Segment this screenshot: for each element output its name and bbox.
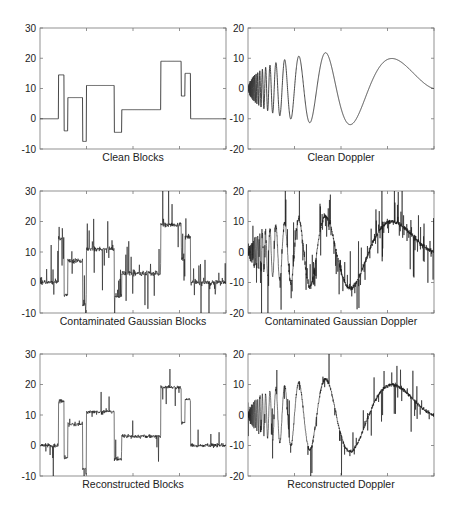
panel-reconstructed-doppler: Reconstructed Doppler -20-1001020 <box>230 349 434 491</box>
axes-frame <box>248 354 434 476</box>
y-tick-label: 10 <box>25 410 37 421</box>
y-tick-label: 0 <box>30 440 36 451</box>
y-tick-label: 20 <box>233 23 245 34</box>
y-tick-label: -10 <box>22 308 37 319</box>
panel-contaminated-doppler: Contaminated Gaussian Doppler -20-100102… <box>230 186 434 328</box>
panel-contaminated-blocks: Contaminated Gaussian Blocks -100102030 <box>22 186 226 328</box>
y-tick-label: 0 <box>30 113 36 124</box>
signal-line <box>248 354 434 476</box>
signal-line <box>40 369 226 476</box>
y-tick-label: 10 <box>233 216 245 227</box>
y-tick-label: 20 <box>25 379 37 390</box>
axes-frame <box>248 28 434 149</box>
panel-title: Reconstructed Doppler <box>287 478 395 490</box>
y-tick-label: -20 <box>230 471 245 482</box>
y-tick-label: 0 <box>238 247 244 258</box>
panel-clean-doppler: Clean Doppler -20-1001020 <box>230 23 434 164</box>
y-tick-label: 20 <box>233 186 245 197</box>
panel-title: Clean Blocks <box>102 151 163 163</box>
y-tick-label: 10 <box>233 379 245 390</box>
panel-reconstructed-blocks: Reconstructed Blocks -100102030 <box>22 349 226 491</box>
signal-line <box>248 191 434 313</box>
panel-title: Reconstructed Blocks <box>82 478 184 490</box>
y-tick-label: 30 <box>25 186 37 197</box>
y-tick-label: -10 <box>230 440 245 451</box>
signal-line <box>40 191 226 313</box>
y-tick-label: 10 <box>25 247 37 258</box>
panel-clean-blocks: Clean Blocks -100102030 <box>22 23 226 164</box>
y-tick-label: -20 <box>230 144 245 155</box>
signal-line <box>248 53 434 125</box>
y-tick-label: 20 <box>233 349 245 360</box>
y-tick-label: -10 <box>230 277 245 288</box>
y-tick-label: 30 <box>25 23 37 34</box>
panel-title: Clean Doppler <box>307 151 375 163</box>
y-tick-label: -10 <box>230 113 245 124</box>
y-tick-label: -20 <box>230 308 245 319</box>
y-tick-label: 0 <box>30 277 36 288</box>
y-tick-label: 10 <box>233 53 245 64</box>
y-tick-label: 0 <box>238 83 244 94</box>
signal-line <box>40 61 226 141</box>
figure: Clean Blocks -100102030 Clean Doppler -2… <box>0 0 458 508</box>
y-tick-label: 20 <box>25 216 37 227</box>
axes-frame <box>248 191 434 313</box>
y-tick-label: -10 <box>22 471 37 482</box>
y-tick-label: 30 <box>25 349 37 360</box>
panel-title: Contaminated Gaussian Doppler <box>265 315 418 327</box>
y-tick-label: 20 <box>25 53 37 64</box>
panel-title: Contaminated Gaussian Blocks <box>60 315 207 327</box>
y-tick-label: 10 <box>25 83 37 94</box>
y-tick-label: 0 <box>238 410 244 421</box>
y-tick-label: -10 <box>22 144 37 155</box>
